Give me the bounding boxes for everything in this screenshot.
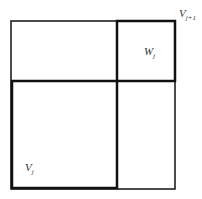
label-v-j: Vj <box>25 162 34 176</box>
label-w-j: Wj <box>144 46 155 60</box>
label-v-j-plus-1: Vj+1 <box>179 8 196 22</box>
